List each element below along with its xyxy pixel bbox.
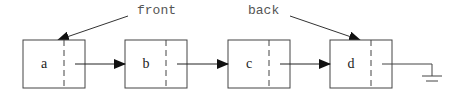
node-value: c xyxy=(246,56,252,71)
node-value: b xyxy=(143,56,150,71)
back-pointer-arrow xyxy=(290,16,360,40)
front-label: front xyxy=(137,3,176,18)
back-label: back xyxy=(248,3,279,18)
front-pointer-arrow xyxy=(58,16,128,40)
node-value: a xyxy=(41,56,48,71)
node-value: d xyxy=(348,56,355,71)
linked-list-diagram: front back a b c d xyxy=(0,0,466,96)
